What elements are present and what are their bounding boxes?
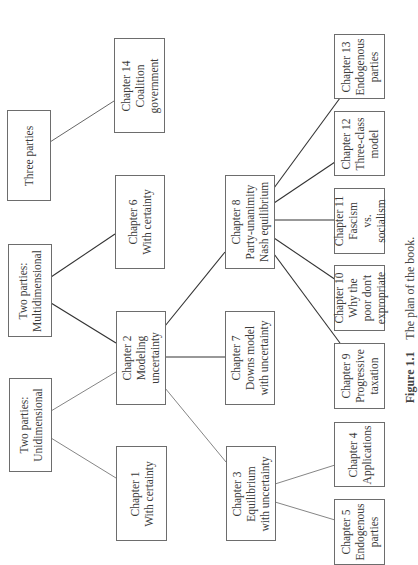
node-chapter-1: Chapter 1 With certainty	[116, 446, 167, 541]
node-chapter-5: Chapter 5 Endogenous parties	[334, 499, 385, 565]
edge-two-multi-ch2	[51, 303, 116, 343]
node-chapter-2: Chapter 2 Modeling uncertainty	[116, 311, 166, 405]
node-chapter-7: Chapter 7 Downs model with uncertainty	[225, 311, 275, 405]
edge-ch3-ch4	[275, 465, 335, 484]
node-chapter-14: Chapter 14 Coalition government	[114, 38, 165, 133]
edge-two-uni-ch2	[51, 372, 116, 411]
node-label: Two parties: Multidimensional	[16, 250, 44, 332]
node-chapter-11: Chapter 11 Fascism vs. socialism	[334, 188, 385, 254]
node-label: Chapter 8 Party-unanimity Nash equilibri…	[229, 182, 271, 262]
node-two-parties-multidimensional: Two parties: Multidimensional	[8, 244, 52, 337]
node-label: Chapter 1 With certainty	[128, 461, 156, 527]
node-label: Three parties	[22, 125, 36, 185]
edge-ch8-ch10	[274, 238, 336, 280]
node-chapter-4: Chapter 4 Applications	[334, 422, 385, 487]
node-two-parties-unidimensional: Two parties: Unidimensional	[9, 378, 52, 472]
figure-caption: Figure 1.1 The plan of the book.	[403, 237, 418, 404]
node-label: Chapter 3 Equilibrium with uncertainty	[230, 456, 272, 531]
edge-two-multi-ch6	[51, 234, 115, 277]
node-label: Chapter 7 Downs model with uncertainty	[229, 320, 271, 395]
node-label: Chapter 14 Coalition government	[119, 58, 161, 113]
node-chapter-8: Chapter 8 Party-unanimity Nash equilibri…	[225, 175, 275, 269]
edge-ch8-ch12	[274, 162, 335, 203]
node-label: Chapter 9 Progressive taxation	[339, 349, 381, 403]
node-chapter-10: Chapter 10 Why the poor don't expropriat…	[334, 265, 385, 331]
edge-three-parties-ch14	[50, 101, 114, 142]
node-label: Chapter 11 Fascism vs. socialism	[332, 196, 388, 246]
edge-two-uni-ch1	[51, 438, 116, 478]
edge-ch2-ch3	[165, 388, 226, 462]
node-chapter-6: Chapter 6 With certainty	[115, 175, 165, 269]
node-label: Chapter 5 Endogenous parties	[339, 504, 381, 561]
node-label: Chapter 2 Modeling uncertainty	[120, 332, 162, 384]
caption-label: Figure 1.1	[403, 352, 417, 404]
node-label: Chapter 13 Endogenous parties	[339, 38, 381, 95]
node-three-parties: Three parties	[7, 110, 51, 201]
edge-ch2-ch8	[165, 252, 225, 326]
node-label: Chapter 4 Applications	[346, 425, 374, 484]
edge-ch3-ch5	[275, 502, 335, 520]
node-chapter-13: Chapter 13 Endogenous parties	[334, 34, 385, 99]
node-chapter-3: Chapter 3 Equilibrium with uncertainty	[226, 446, 276, 541]
node-label: Chapter 10 Why the poor don't expropriat…	[332, 272, 388, 324]
node-chapter-9: Chapter 9 Progressive taxation	[334, 343, 385, 409]
edge-ch8-ch13	[274, 98, 340, 188]
node-label: Chapter 6 With certainty	[126, 189, 154, 255]
caption-text: The plan of the book.	[403, 237, 417, 340]
node-label: Two parties: Unidimensional	[17, 388, 45, 461]
edge-ch8-ch9	[274, 254, 340, 343]
node-chapter-12: Chapter 12 Three-class model	[334, 111, 385, 176]
node-label: Chapter 12 Three-class model	[339, 117, 381, 170]
